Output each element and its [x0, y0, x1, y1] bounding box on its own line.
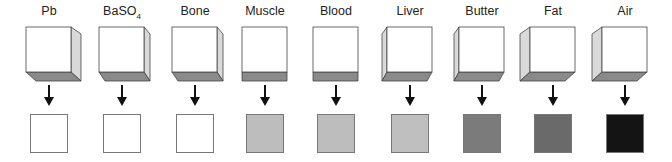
down-arrow-icon: [446, 84, 518, 108]
material-column-blood: Blood: [300, 0, 372, 162]
radiograph-density-square: [30, 114, 68, 153]
material-cube-icon: [159, 20, 231, 84]
material-cube-icon: [517, 20, 589, 84]
radiograph-density-square: [246, 114, 284, 153]
material-cube-icon: [374, 20, 446, 84]
down-arrow-icon: [517, 84, 589, 108]
material-cube-icon: [13, 20, 85, 84]
radiograph-density-square: [534, 114, 572, 153]
material-label: Liver: [374, 4, 446, 18]
radiograph-density-square: [317, 114, 355, 153]
material-cube-icon: [589, 20, 661, 84]
material-column-baso: BaSO4: [86, 0, 158, 162]
down-arrow-icon: [589, 84, 661, 108]
material-column-butter: Butter: [446, 0, 518, 162]
radiograph-density-square: [391, 114, 429, 153]
material-label: Muscle: [229, 4, 301, 18]
material-label: BaSO4: [86, 4, 158, 21]
material-column-muscle: Muscle: [229, 0, 301, 162]
material-column-air: Air: [589, 0, 661, 162]
material-column-liver: Liver: [374, 0, 446, 162]
down-arrow-icon: [300, 84, 372, 108]
material-cube-icon: [229, 20, 301, 84]
down-arrow-icon: [229, 84, 301, 108]
down-arrow-icon: [159, 84, 231, 108]
material-column-bone: Bone: [159, 0, 231, 162]
material-label: Blood: [300, 4, 372, 18]
material-label: Air: [589, 4, 661, 18]
radiograph-density-square: [463, 114, 501, 153]
radiograph-density-square: [103, 114, 141, 153]
down-arrow-icon: [374, 84, 446, 108]
radiograph-density-square: [176, 114, 214, 153]
material-label: Fat: [517, 4, 589, 18]
material-cube-icon: [86, 20, 158, 84]
material-label: Bone: [159, 4, 231, 18]
material-column-fat: Fat: [517, 0, 589, 162]
material-label: Butter: [446, 4, 518, 18]
material-column-pb: Pb: [13, 0, 85, 162]
down-arrow-icon: [13, 84, 85, 108]
material-cube-icon: [446, 20, 518, 84]
down-arrow-icon: [86, 84, 158, 108]
material-cube-icon: [300, 20, 372, 84]
radiograph-density-square: [606, 114, 644, 153]
material-label: Pb: [13, 4, 85, 18]
